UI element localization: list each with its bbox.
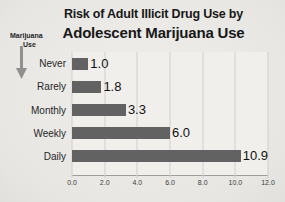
x-tick-label: 2.0 [100,179,110,186]
x-tick-label: 6.0 [165,179,175,186]
x-tick-label: 0.0 [67,179,77,186]
bar [72,127,170,139]
value-label: 3.3 [128,104,146,116]
bar-track: 1.8 [72,81,268,93]
value-label: 6.0 [172,127,190,139]
value-label: 10.9 [243,150,268,162]
slide-background: Risk of Adult Illicit Drug Use by Adoles… [0,0,285,202]
x-tick-label: 4.0 [132,179,142,186]
value-label: 1.0 [90,58,108,70]
bar-row-rarely: Rarely 1.8 [4,75,268,98]
bar-rows: Never 1.0 Rarely 1.8 Monthly 3.3 [4,52,268,168]
x-tick-label: 8.0 [198,179,208,186]
x-tick-label: 12.0 [261,179,275,186]
bar [72,104,126,116]
bar [72,150,241,162]
bar [72,58,88,70]
bar-track: 1.0 [72,58,268,70]
annotation-line2: Use [23,40,66,49]
chart-title-line1: Risk of Adult Illicit Drug Use by [26,6,281,23]
bar-track: 3.3 [72,104,268,116]
bar-track: 6.0 [72,127,268,139]
bar-row-weekly: Weekly 6.0 [4,122,268,145]
bar-row-monthly: Monthly 3.3 [4,98,268,121]
category-label: Rarely [4,81,72,92]
category-label: Daily [4,151,72,162]
bar-track: 10.9 [72,150,268,162]
bar-row-never: Never 1.0 [4,52,268,75]
x-tick-label: 10.0 [229,179,243,186]
x-axis-tick-labels: 0.02.04.06.08.010.012.0 [72,176,268,188]
annotation-line1: Marijuana [10,31,66,40]
category-label: Weekly [4,128,72,139]
bar-row-daily: Daily 10.9 [4,145,268,168]
bar [72,81,101,93]
value-label: 1.8 [103,81,121,93]
category-label: Monthly [4,105,72,116]
bar-chart: Never 1.0 Rarely 1.8 Monthly 3.3 [4,52,268,176]
category-label: Never [4,58,72,69]
